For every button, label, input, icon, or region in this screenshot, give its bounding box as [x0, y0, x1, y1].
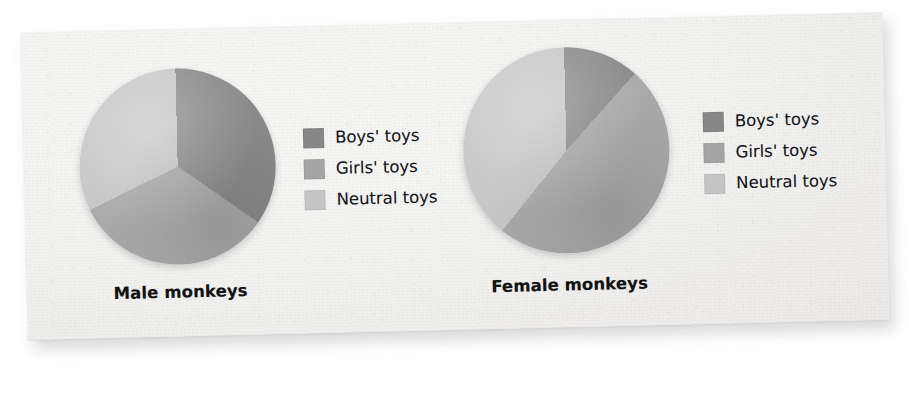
legend-label-boys-toys: Boys' toys [735, 109, 820, 130]
legend-label-boys-toys: Boys' toys [335, 126, 420, 147]
scanned-figure: Male monkeys Boys' toys Girls' toys Neut… [0, 0, 909, 395]
male-monkeys-chart-group: Male monkeys Boys' toys Girls' toys Neut… [77, 62, 439, 303]
female-monkeys-caption: Female monkeys [491, 273, 648, 296]
legend-item-boys-toys: Boys' toys [703, 109, 837, 132]
female-monkeys-pie-chart [461, 45, 672, 256]
legend-item-neutral-toys: Neutral toys [304, 187, 438, 210]
female-monkeys-chart-group: Female monkeys Boys' toys Girls' toys Ne… [461, 41, 840, 297]
neutral-toys-swatch-icon [704, 173, 725, 193]
male-chart-legend: Boys' toys Girls' toys Neutral toys [303, 125, 438, 210]
female-chart-legend: Boys' toys Girls' toys Neutral toys [703, 109, 838, 194]
legend-label-neutral-toys: Neutral toys [736, 171, 837, 192]
male-monkeys-caption: Male monkeys [113, 281, 247, 303]
legend-label-girls-toys: Girls' toys [735, 140, 817, 161]
girls-toys-swatch-icon [703, 142, 724, 162]
legend-label-girls-toys: Girls' toys [336, 157, 418, 178]
legend-item-girls-toys: Girls' toys [304, 156, 438, 179]
male-monkeys-pie-chart [77, 66, 278, 267]
girls-toys-swatch-icon [304, 159, 325, 179]
boys-toys-swatch-icon [703, 111, 724, 131]
legend-label-neutral-toys: Neutral toys [336, 187, 437, 208]
neutral-toys-swatch-icon [304, 190, 325, 210]
male-pie-block: Male monkeys [77, 66, 278, 304]
legend-item-girls-toys: Girls' toys [703, 140, 837, 163]
legend-item-neutral-toys: Neutral toys [704, 170, 838, 193]
legend-item-boys-toys: Boys' toys [303, 125, 437, 148]
boys-toys-swatch-icon [303, 128, 324, 148]
figure-panel: Male monkeys Boys' toys Girls' toys Neut… [20, 12, 889, 340]
female-pie-block: Female monkeys [461, 45, 673, 297]
